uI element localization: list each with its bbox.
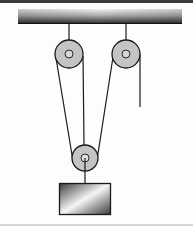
ceiling — [18, 9, 182, 24]
axle-icon — [122, 50, 130, 58]
pulley-diagram — [0, 0, 193, 227]
axle-icon — [65, 50, 73, 58]
top-border — [0, 0, 193, 3]
fixed-pulley-right — [112, 40, 140, 68]
load-block — [60, 184, 111, 215]
fixed-pulley-left — [55, 40, 83, 68]
